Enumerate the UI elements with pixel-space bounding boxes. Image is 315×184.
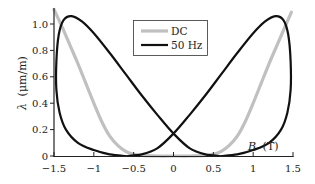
y-tick-label: 1.0: [32, 19, 48, 30]
x-tick-label: 0.5: [205, 163, 221, 174]
legend: DC 50 Hz: [134, 21, 208, 56]
y-ticks: 00.20.40.60.81.0: [32, 19, 54, 162]
x-tick-label: −1.5: [42, 163, 66, 174]
y-tick-label: 0.4: [32, 98, 48, 109]
x-tick-label: −0.5: [122, 163, 146, 174]
y-axis-label: λ (μm/m): [16, 56, 29, 111]
x-tick-label: 1.5: [285, 163, 301, 174]
magnetostriction-chart: −1.5−1−0.500.511.5 00.20.40.60.81.0 B (T…: [0, 0, 315, 184]
x-axis-label: B (T): [247, 140, 279, 153]
y-tick-label: 0.2: [32, 124, 48, 135]
legend-label-dc: DC: [171, 25, 187, 37]
x-tick-label: 1: [250, 163, 256, 174]
y-tick-label: 0.8: [32, 45, 48, 56]
x-tick-label: 0: [170, 163, 176, 174]
x-tick-label: −1: [86, 163, 101, 174]
y-tick-label: 0: [42, 151, 48, 162]
y-tick-label: 0.6: [32, 71, 48, 82]
legend-label-50hz: 50 Hz: [171, 39, 203, 51]
